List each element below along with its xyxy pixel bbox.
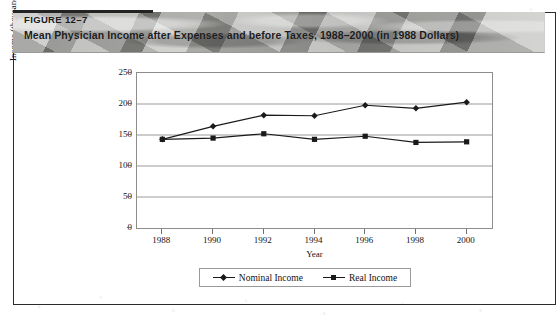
legend-item-label: Nominal Income	[239, 273, 303, 283]
x-tick-mark	[161, 229, 162, 234]
square-marker-icon	[323, 273, 345, 282]
square-marker-icon	[363, 134, 368, 139]
x-tick-label: 1992	[243, 235, 283, 245]
x-axis-title: Year	[136, 249, 493, 259]
x-tick-label: 1994	[294, 235, 334, 245]
x-tick-label: 1998	[395, 235, 435, 245]
figure-caption: Mean Physician Income after Expenses and…	[24, 29, 459, 41]
y-axis-tick-group: 250200150100500	[106, 72, 132, 229]
x-tick-mark	[314, 229, 315, 234]
diamond-marker-icon	[261, 112, 268, 119]
x-tick-mark	[415, 229, 416, 234]
legend-item-label: Real Income	[349, 273, 397, 283]
x-tick-mark	[466, 229, 467, 234]
square-marker-icon	[261, 131, 266, 136]
y-tick-mark	[127, 165, 132, 166]
y-tick-mark	[127, 196, 132, 197]
y-tick-mark	[127, 103, 132, 104]
y-tick-mark	[127, 227, 132, 228]
plot-area	[136, 72, 493, 229]
series-line	[162, 102, 466, 139]
diamond-marker-icon	[311, 113, 318, 120]
header-top-rule	[13, 10, 153, 13]
x-tick-mark	[212, 229, 213, 234]
figure-number-label: FIGURE 12–7	[24, 14, 88, 25]
square-marker-icon	[464, 139, 469, 144]
x-tick-mark	[364, 229, 365, 234]
chart-legend: Nominal Income Real Income	[199, 268, 411, 287]
diamond-marker-icon	[210, 123, 217, 130]
diamond-marker-icon	[213, 273, 235, 282]
x-tick-label: 1990	[192, 235, 232, 245]
x-tick-label: 2000	[446, 235, 486, 245]
plot-svg	[137, 73, 492, 228]
legend-item: Nominal Income	[213, 273, 303, 283]
square-marker-icon	[413, 140, 418, 145]
square-marker-icon	[312, 137, 317, 142]
y-tick-mark	[127, 134, 132, 135]
chart-container: Income (thousands of dollars) 2502001501…	[14, 54, 554, 304]
legend-item: Real Income	[323, 273, 397, 283]
square-marker-icon	[210, 136, 215, 141]
x-tick-label: 1988	[141, 235, 181, 245]
x-axis-tick-group: Year 1988199019921994199619982000	[136, 229, 493, 265]
x-tick-label: 1996	[344, 235, 384, 245]
y-tick-mark	[127, 72, 132, 73]
square-marker-icon	[160, 137, 165, 142]
diamond-marker-icon	[413, 105, 420, 112]
x-tick-mark	[263, 229, 264, 234]
diamond-marker-icon	[362, 102, 369, 109]
